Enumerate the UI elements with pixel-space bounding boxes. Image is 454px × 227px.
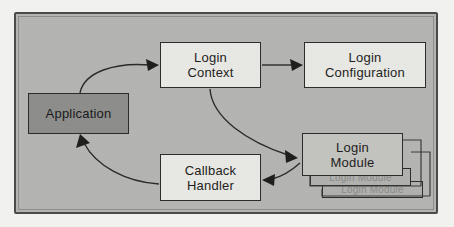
diagram-canvas: Login Module Login Module Application Lo… bbox=[0, 0, 454, 227]
node-label-line1: Login bbox=[349, 50, 382, 65]
node-label-line1: Callback bbox=[185, 163, 236, 178]
node-label-line2: Module bbox=[331, 155, 375, 170]
node-application[interactable]: Application bbox=[28, 93, 129, 134]
node-label-line1: Login bbox=[336, 140, 369, 155]
node-login-configuration[interactable]: Login Configuration bbox=[304, 42, 426, 88]
node-label-line2: Context bbox=[187, 65, 233, 80]
node-label-line1: Application bbox=[46, 106, 112, 121]
node-callback-handler[interactable]: Callback Handler bbox=[160, 154, 261, 201]
node-login-module[interactable]: Login Module bbox=[302, 133, 403, 176]
node-label-line2: Configuration bbox=[325, 65, 405, 80]
node-label-line1: Login bbox=[194, 50, 227, 65]
node-login-context[interactable]: Login Context bbox=[160, 42, 261, 88]
node-label-line2: Handler bbox=[187, 178, 234, 193]
